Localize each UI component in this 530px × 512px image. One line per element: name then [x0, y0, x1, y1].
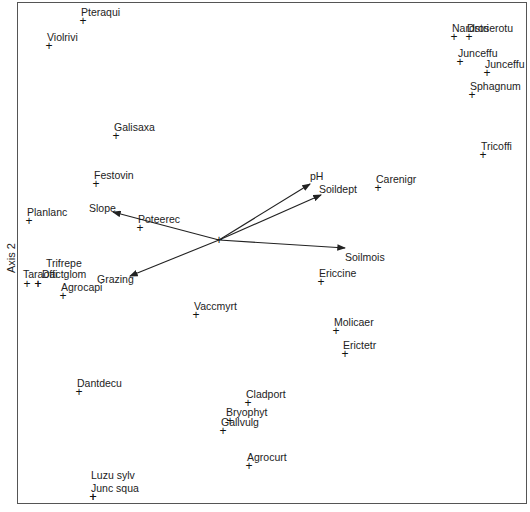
vector-ph: [219, 184, 310, 240]
vector-label: Slope: [89, 202, 116, 214]
species-label: Gallvulg: [221, 416, 259, 428]
species-label: Erictetr: [343, 339, 376, 351]
species-label: Dantdecu: [77, 377, 122, 389]
species-label: Festovin: [94, 169, 134, 181]
species-label: Droserotu: [467, 22, 513, 34]
species-label: Ericcine: [319, 267, 356, 279]
species-label: Sphagnum: [470, 80, 521, 92]
species-label: Dactglom: [42, 268, 86, 280]
vector-layer: +: [0, 0, 530, 512]
species-label: Galisaxa: [114, 121, 155, 133]
species-label: Pteraqui: [81, 6, 120, 18]
vector-label: Soildept: [319, 183, 357, 195]
species-label: Agrocurt: [247, 451, 287, 463]
species-label: Luzu sylv: [91, 469, 135, 481]
species-label: Cladport: [246, 388, 286, 400]
vector-grazing: [130, 240, 219, 276]
species-label: Tricoffi: [481, 140, 512, 152]
vector-soildept: [219, 195, 321, 240]
vector-label: pH: [310, 170, 323, 182]
species-label: Planlanc: [27, 206, 67, 218]
species-label: Junceffu: [485, 58, 525, 70]
vector-label: Soilmois: [345, 251, 385, 263]
species-label: Poteerec: [138, 213, 180, 225]
species-label: Vaccmyrt: [194, 300, 237, 312]
species-label: Junc squa: [91, 482, 139, 494]
species-label: Violrivi: [47, 31, 78, 43]
vector-label: Grazing: [97, 273, 134, 285]
species-label: Molicaer: [334, 316, 374, 328]
species-label: Carenigr: [376, 173, 416, 185]
plus-marker-icon: +: [35, 278, 42, 290]
vector-soilmois: [219, 240, 345, 248]
